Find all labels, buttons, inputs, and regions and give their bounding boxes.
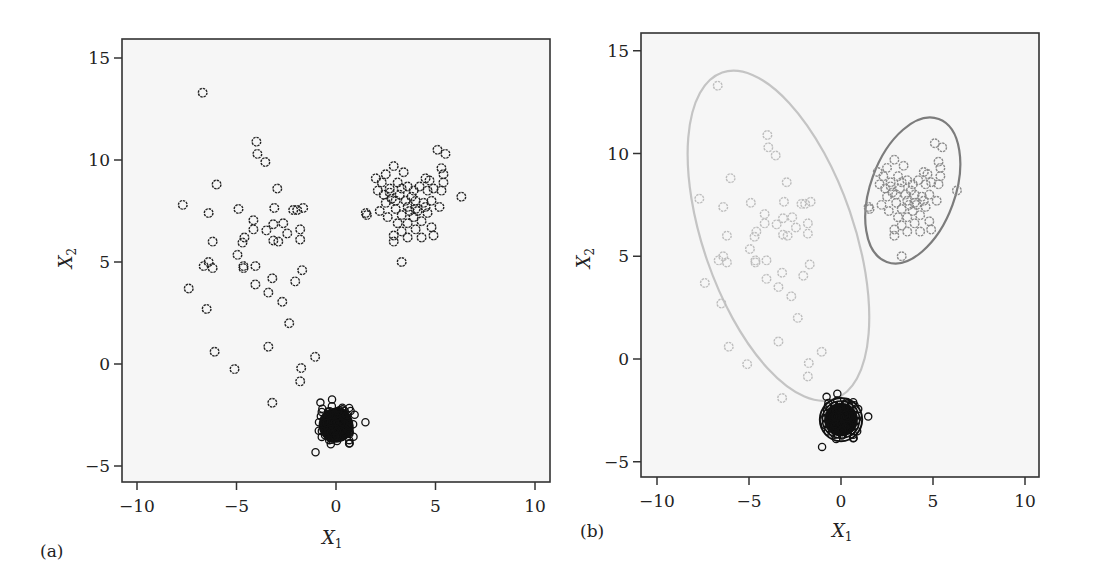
y-tick-label: −5 [85, 456, 110, 476]
x-tick-label: −10 [639, 491, 675, 511]
panel-label: (a) [40, 541, 63, 561]
x-axis-label: X1 [320, 527, 342, 551]
x-tick-label: −5 [736, 491, 761, 511]
y-tick-label: 0 [618, 349, 629, 369]
y-tick-label: 15 [607, 41, 629, 61]
y-axis-label: X2 [573, 248, 597, 270]
x-tick-label: 10 [524, 496, 546, 516]
y-tick-label: 10 [88, 150, 110, 170]
panel-a: −10−50510−5051015X1X2(a) [40, 39, 550, 561]
y-tick-label: 5 [618, 246, 629, 266]
figure: −10−50510−5051015X1X2(a) −10−50510−50510… [0, 0, 1118, 571]
x-tick-label: 5 [430, 496, 441, 516]
x-tick-label: 5 [928, 491, 939, 511]
x-tick-label: 10 [1014, 491, 1036, 511]
x-tick-label: 0 [331, 496, 342, 516]
x-tick-label: −10 [119, 496, 155, 516]
y-tick-label: 0 [99, 354, 110, 374]
panel-label: (b) [580, 521, 604, 541]
y-tick-label: 15 [88, 48, 110, 68]
x-axis-label: X1 [830, 520, 852, 544]
x-tick-label: 0 [836, 491, 847, 511]
y-axis-label: X2 [55, 248, 79, 270]
panel-b: −10−50510−5051015X1X2(b) [573, 33, 1039, 544]
y-tick-label: −5 [604, 452, 629, 472]
y-tick-label: 5 [99, 252, 110, 272]
scatter-figure: −10−50510−5051015X1X2(a) −10−50510−50510… [0, 0, 1118, 571]
y-tick-label: 10 [607, 144, 629, 164]
x-tick-label: −5 [224, 496, 249, 516]
